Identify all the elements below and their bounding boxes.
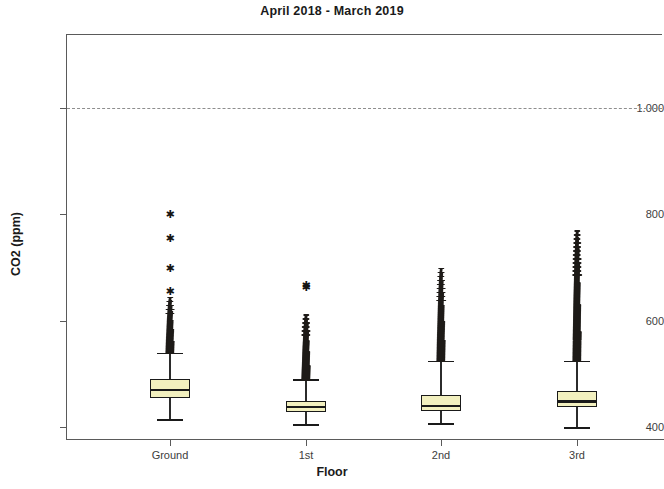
whisker-cap-lower-1st	[293, 424, 319, 426]
outlier-star-Ground: ✱	[165, 286, 174, 297]
whisker-lower-2nd	[440, 411, 442, 423]
y-tick-mark	[60, 321, 67, 322]
y-tick-mark	[60, 214, 67, 215]
x-axis-line	[66, 439, 664, 440]
median-1st	[286, 406, 326, 408]
x-tick-mark	[577, 440, 578, 446]
box-2nd	[421, 395, 461, 411]
y-tick-label: 400	[618, 421, 664, 433]
whisker-upper-Ground	[169, 353, 171, 380]
outlier-cloud-Ground	[165, 353, 175, 355]
outlier-star-Ground: ✱	[165, 209, 174, 220]
outlier-cloud-1st	[301, 379, 311, 381]
x-tick-mark	[306, 440, 307, 446]
x-tick-mark	[441, 440, 442, 446]
x-tick-label-ground: Ground	[125, 449, 215, 461]
x-tick-label-3rd: 3rd	[532, 449, 622, 461]
median-3rd	[557, 400, 597, 402]
chart-title: April 2018 - March 2019	[0, 4, 664, 18]
whisker-cap-lower-Ground	[157, 419, 183, 421]
y-tick-label: 600	[618, 315, 664, 327]
outlier-cloud-3rd	[572, 361, 582, 363]
x-axis-label: Floor	[0, 465, 664, 479]
whisker-upper-2nd	[440, 361, 442, 396]
outlier-star-Ground: ✱	[165, 233, 174, 244]
outlier-cloud-2nd	[436, 361, 446, 363]
x-tick-label-2nd: 2nd	[396, 449, 486, 461]
median-2nd	[421, 405, 461, 407]
box-3rd	[557, 391, 597, 407]
y-axis-label: CO2 (ppm)	[9, 184, 23, 304]
whisker-cap-lower-3rd	[564, 427, 590, 429]
outlier-star-Ground: ✱	[165, 262, 174, 273]
y-tick-mark	[60, 108, 67, 109]
whisker-lower-3rd	[576, 407, 578, 427]
y-tick-mark	[60, 427, 67, 428]
whisker-lower-1st	[305, 412, 307, 424]
reference-line-1000ppm	[67, 108, 662, 109]
x-tick-label-1st: 1st	[261, 449, 351, 461]
median-Ground	[150, 389, 190, 391]
chart-page: April 2018 - March 2019 CO2 (ppm) Floor …	[0, 0, 664, 489]
whisker-upper-1st	[305, 379, 307, 401]
x-tick-mark	[170, 440, 171, 446]
outlier-star-1st: ✱	[301, 282, 310, 293]
whisker-cap-lower-2nd	[428, 423, 454, 425]
y-tick-label: 800	[618, 208, 664, 220]
whisker-lower-Ground	[169, 398, 171, 419]
whisker-upper-3rd	[576, 361, 578, 391]
